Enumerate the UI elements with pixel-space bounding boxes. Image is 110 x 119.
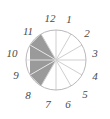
hour-label-10: 10 [7,48,18,59]
hour-label-9: 9 [13,70,19,81]
hour-label-11: 11 [23,26,33,37]
hour-label-6: 6 [65,99,71,110]
hour-label-4: 4 [92,71,98,82]
hour-label-12: 12 [45,13,56,24]
hour-label-7: 7 [45,99,51,110]
hour-label-1: 1 [66,14,72,25]
hour-label-5: 5 [82,89,88,100]
hour-label-3: 3 [92,48,98,59]
hour-label-8: 8 [25,90,31,101]
clock-diagram-figure: 12 1 2 3 4 5 6 7 8 9 10 11 [0,0,110,119]
hour-label-2: 2 [84,28,90,39]
